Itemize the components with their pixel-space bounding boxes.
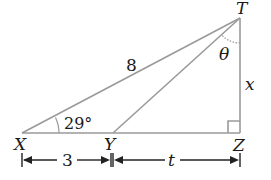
angle-arc-t — [222, 35, 241, 43]
side-label-tz: x — [245, 74, 255, 94]
vertex-label-y: Y — [104, 134, 117, 154]
angle-label-theta: θ — [219, 44, 229, 64]
vertex-label-z: Z — [232, 135, 246, 155]
angle-arc-x — [56, 117, 60, 133]
vertex-label-t: T — [236, 0, 249, 18]
angle-label-29: 29° — [64, 114, 92, 133]
vertex-label-x: X — [12, 134, 27, 154]
arrowhead-right-icon — [101, 156, 110, 164]
dimension-label-yz: t — [168, 150, 175, 170]
dimension-label-xy: 3 — [62, 150, 73, 170]
arrowhead-right-icon — [230, 156, 239, 164]
side-label-xt: 8 — [126, 55, 137, 75]
triangle-diagram: T X Y Z 8 x θ 29° 3 t — [0, 0, 271, 180]
arrowhead-left-icon — [114, 156, 123, 164]
arrowhead-left-icon — [23, 156, 32, 164]
right-angle-marker — [228, 121, 240, 133]
